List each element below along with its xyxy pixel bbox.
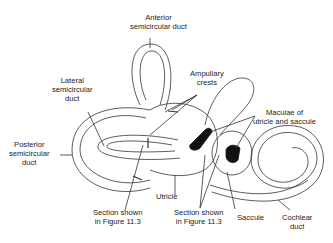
- label-maculae-utricle-saccule: Maculae of utricle and saccule: [253, 108, 316, 126]
- label-ampullary-crests: Ampullary crests: [190, 69, 224, 87]
- label-section-left: Section shown in Figure 11.3: [93, 208, 142, 226]
- label-posterior-semicircular-duct: Posterior semicircular duct: [9, 140, 50, 167]
- label-saccule: Saccule: [237, 213, 264, 222]
- utricle-shape: [150, 103, 217, 175]
- label-lateral-semicircular-duct: Lateral semicircular duct: [52, 76, 93, 103]
- inner-ear-diagram: Anterior semicircular duct Lateral semic…: [0, 0, 333, 243]
- label-utricle: Utricle: [156, 192, 178, 201]
- saccule-macula: [226, 145, 240, 162]
- label-cochlear-duct: Cochlear duct: [282, 213, 312, 231]
- utricle-macula: [190, 128, 212, 150]
- label-anterior-semicircular-duct: Anterior semicircular duct: [130, 13, 187, 31]
- label-section-right: Section shown in Figure 11.3: [174, 208, 223, 226]
- lateral-duct-shape: [98, 135, 180, 159]
